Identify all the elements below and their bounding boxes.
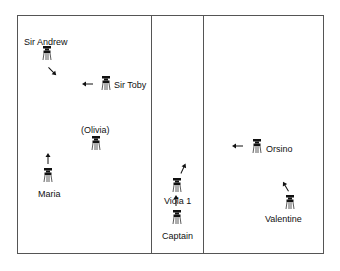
- olivia-chair-icon: [91, 136, 101, 150]
- maria-chair-icon: [43, 168, 53, 182]
- sir-andrew-arrow-icon: [45, 64, 59, 78]
- captain-chair-icon: [172, 210, 182, 224]
- room-divider-right: [203, 15, 204, 254]
- orsino-chair-icon: [252, 139, 262, 153]
- viola-arrow-icon: [176, 162, 190, 176]
- valentine-label: Valentine: [265, 214, 302, 224]
- maria-arrow-icon: [41, 152, 55, 166]
- valentine-chair-icon: [285, 195, 295, 209]
- sir-toby-chair-icon: [101, 76, 111, 90]
- orsino-label: Orsino: [266, 144, 293, 154]
- valentine-arrow-icon: [279, 180, 293, 194]
- captain-arrow-icon: [169, 194, 183, 208]
- maria-label: Maria: [38, 189, 61, 199]
- olivia-label: (Olivia): [81, 125, 110, 135]
- sir-toby-arrow-icon: [81, 77, 95, 91]
- room-divider-left: [151, 15, 152, 254]
- viola-chair-icon: [172, 178, 182, 192]
- captain-label: Captain: [162, 231, 193, 241]
- sir-andrew-chair-icon: [42, 46, 52, 60]
- sir-andrew-label: Sir Andrew: [24, 37, 68, 47]
- sir-toby-label: Sir Toby: [114, 80, 146, 90]
- orsino-arrow-icon: [231, 139, 245, 153]
